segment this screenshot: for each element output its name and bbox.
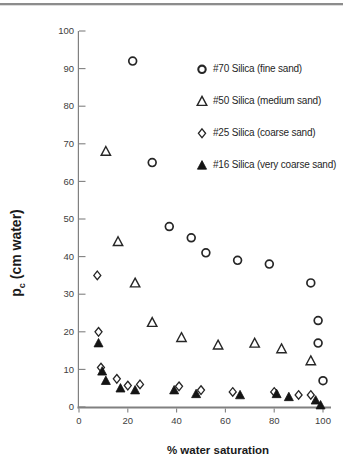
y-axis-title-rest: (cm water) xyxy=(8,209,24,283)
x-tick-label: 0 xyxy=(76,415,81,426)
data-point-marker xyxy=(137,380,144,389)
data-point-marker xyxy=(95,328,102,337)
y-tick-label: 30 xyxy=(63,288,74,299)
diamond-open-icon xyxy=(196,127,208,139)
data-point-marker xyxy=(94,338,103,346)
data-point-marker xyxy=(113,237,122,246)
legend: #70 Silica (fine sand)#50 Silica (medium… xyxy=(196,62,336,190)
data-point-marker xyxy=(165,223,173,231)
y-tick-label: 100 xyxy=(58,25,74,36)
y-tick-label: 20 xyxy=(63,326,74,337)
figure: 0102030405060708090100020406080100 pc (c… xyxy=(0,0,350,470)
data-point-marker xyxy=(148,159,156,167)
x-tick-label: 80 xyxy=(269,415,280,426)
x-tick-label: 60 xyxy=(220,415,231,426)
data-point-marker xyxy=(277,344,286,353)
triangle-open-icon xyxy=(196,95,208,107)
data-point-marker xyxy=(124,381,131,390)
y-tick-label: 70 xyxy=(63,138,74,149)
data-point-marker xyxy=(307,279,315,287)
data-point-marker xyxy=(94,271,101,280)
data-point-marker xyxy=(319,377,327,385)
data-point-marker xyxy=(314,317,322,325)
y-axis-title-main: p xyxy=(8,288,24,297)
y-tick-label: 10 xyxy=(63,364,74,375)
data-point-marker xyxy=(148,318,157,327)
legend-label: #25 Silica (coarse sand) xyxy=(213,127,315,138)
y-axis-title: pc (cm water) xyxy=(8,173,30,333)
x-tick-label: 20 xyxy=(123,415,134,426)
triangle-filled-icon xyxy=(196,159,208,171)
data-point-marker xyxy=(307,391,314,400)
legend-label: #50 Silica (medium sand) xyxy=(213,95,321,106)
y-axis-title-subscript: c xyxy=(17,283,27,288)
data-point-marker xyxy=(213,340,222,349)
legend-label: #70 Silica (fine sand) xyxy=(213,63,302,74)
data-point-marker xyxy=(130,278,139,287)
x-tick-label: 100 xyxy=(315,415,331,426)
y-tick-label: 80 xyxy=(63,100,74,111)
data-point-marker xyxy=(250,338,259,347)
data-point-marker xyxy=(295,391,302,400)
data-point-marker xyxy=(265,260,273,268)
data-point-marker xyxy=(101,147,110,156)
data-point-marker xyxy=(234,256,242,264)
data-point-marker xyxy=(116,384,125,392)
data-point-marker xyxy=(113,375,120,384)
data-point-marker xyxy=(314,339,322,347)
legend-item: #70 Silica (fine sand) xyxy=(196,62,336,75)
legend-item: #50 Silica (medium sand) xyxy=(196,94,336,107)
legend-item: #16 Silica (very coarse sand) xyxy=(196,158,336,171)
data-point-marker xyxy=(236,390,245,398)
x-tick-label: 40 xyxy=(171,415,182,426)
circle-open-icon xyxy=(196,63,208,75)
legend-item: #25 Silica (coarse sand) xyxy=(196,126,336,139)
x-axis-title: % water saturation xyxy=(130,444,306,456)
data-point-marker xyxy=(284,392,293,400)
data-point-marker xyxy=(229,388,236,397)
y-tick-label: 60 xyxy=(63,176,74,187)
y-tick-label: 0 xyxy=(69,401,74,412)
y-tick-label: 50 xyxy=(63,213,74,224)
data-point-marker xyxy=(177,333,186,342)
data-point-marker xyxy=(202,249,210,257)
data-point-marker xyxy=(306,356,315,365)
data-point-marker xyxy=(129,57,137,65)
y-tick-label: 90 xyxy=(63,63,74,74)
y-tick-label: 40 xyxy=(63,251,74,262)
data-point-marker xyxy=(101,376,110,384)
legend-label: #16 Silica (very coarse sand) xyxy=(213,159,336,170)
data-point-marker xyxy=(187,234,195,242)
